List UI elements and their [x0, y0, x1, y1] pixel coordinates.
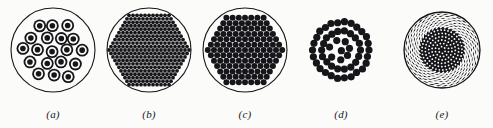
panel-a-artwork	[8, 0, 98, 100]
panel-e-label: (e)	[397, 108, 487, 120]
panel-e: (e)	[397, 0, 487, 128]
panel-b-label: (b)	[104, 108, 194, 120]
panel-c-label: (c)	[200, 108, 290, 120]
panel-d: (d)	[296, 0, 386, 128]
panel-b: (b)	[104, 0, 194, 128]
panel-e-artwork	[397, 0, 487, 100]
figure-plate: (a) (b) (c) (d) (e)	[0, 0, 493, 128]
panel-a: (a)	[8, 0, 98, 128]
panel-c-artwork	[200, 0, 290, 100]
panel-d-label: (d)	[296, 108, 386, 120]
panel-d-artwork	[296, 0, 386, 100]
panel-c: (c)	[200, 0, 290, 128]
panel-a-label: (a)	[8, 108, 98, 120]
panel-b-artwork	[104, 0, 194, 100]
